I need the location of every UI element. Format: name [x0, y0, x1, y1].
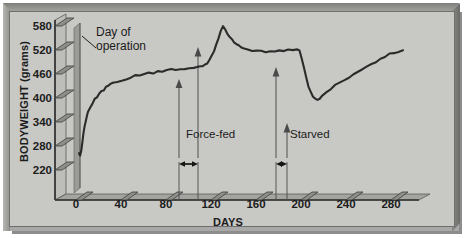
starved-label: Starved: [290, 129, 330, 141]
y-tick-label-580: 580: [18, 21, 52, 33]
x-tick-label-80: 80: [149, 199, 183, 211]
day-of-operation-leader-line: [82, 36, 96, 48]
force-fed-span-arrow: [179, 161, 198, 167]
x-tick-label-200: 200: [284, 199, 318, 211]
day-of-operation-line2: operation: [96, 40, 146, 54]
x-tick-label-120: 120: [194, 199, 228, 211]
plot-area: [10, 12, 454, 226]
x-tick-label-280: 280: [374, 199, 408, 211]
starved-span-arrow: [276, 161, 287, 167]
x-tick-label-40: 40: [104, 199, 138, 211]
day-of-operation-line1: Day of: [96, 26, 146, 40]
x-tick-label-160: 160: [239, 199, 273, 211]
force-fed-label: Force-fed: [186, 129, 235, 141]
starved-callout-arrows: [273, 67, 291, 158]
bodyweight-line-chart: [10, 12, 454, 226]
figure-container: 580 520 460 400 340 280 220 0 40 80 120 …: [0, 0, 469, 238]
day-of-operation-band: [74, 23, 80, 193]
y-axis-title: BODYWEIGHT (grams): [19, 41, 30, 162]
y-tick-label-220: 220: [18, 165, 52, 177]
x-tick-label-0: 0: [59, 199, 93, 211]
x-axis-title: DAYS: [213, 217, 243, 228]
x-tick-label-240: 240: [329, 199, 363, 211]
force-fed-callout-arrows: [176, 47, 202, 158]
day-of-operation-label: Day of operation: [96, 26, 146, 53]
